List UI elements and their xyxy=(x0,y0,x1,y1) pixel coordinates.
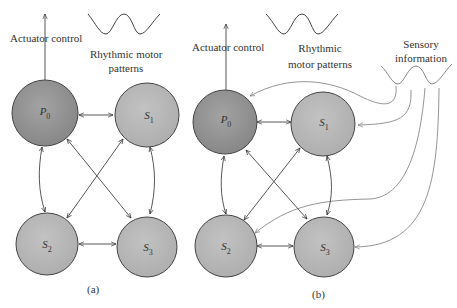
edge-s1-s2 xyxy=(244,148,300,220)
edge-p0-s3 xyxy=(246,150,307,219)
sensory-line-s3 xyxy=(355,88,439,247)
node-label-s1-b: S1 xyxy=(319,116,329,131)
rhythm-label-a: Rhythmic motor patterns xyxy=(90,47,162,75)
node-label-s2-a: S2 xyxy=(42,238,52,253)
sensory-wave-icon xyxy=(381,64,452,84)
rhythm-wave-icon xyxy=(266,14,338,34)
edge-p0-s3 xyxy=(67,139,131,218)
node-label-s3-a: S3 xyxy=(143,241,153,256)
node-label-s1-a: S1 xyxy=(144,109,154,124)
node-label-s3-b: S3 xyxy=(320,241,330,256)
caption-b: (b) xyxy=(312,287,325,301)
rhythm-label-b: Rhythmic motor patterns xyxy=(282,41,358,71)
rhythm-wave-icon xyxy=(88,14,160,34)
actuator-label-b: Actuator control xyxy=(192,40,264,54)
sensory-label: Sensory information xyxy=(388,37,454,65)
edge-p0-s2 xyxy=(39,147,45,212)
node-label-s2-b: S2 xyxy=(221,240,231,255)
node-label-p0-b: P0 xyxy=(221,113,232,128)
node-label-p0-a: P0 xyxy=(40,105,51,120)
caption-a: (a) xyxy=(87,282,99,296)
sensory-line-s1 xyxy=(358,90,411,125)
edge-p0-s2 xyxy=(221,156,226,214)
actuator-label-a: Actuator control xyxy=(10,31,82,45)
edge-s1-s3 xyxy=(150,147,155,214)
edge-s1-s2 xyxy=(67,139,123,218)
edge-s1-s3 xyxy=(327,156,332,215)
